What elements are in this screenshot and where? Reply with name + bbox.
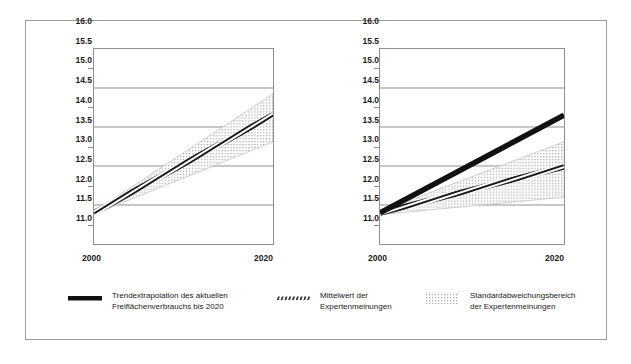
panels-row: SZENARIO 1 (Turbo-Kapitalismus) 16.0 15.… — [26, 21, 606, 279]
chart-panel-szenario-1: SZENARIO 1 (Turbo-Kapitalismus) 16.0 15.… — [26, 21, 317, 279]
legend-item-standardabweichung: Standardabweichungsbereich der Expertenm… — [426, 291, 575, 312]
legend-label-trendextrapolation: Trendextrapolation des aktuellen Freiflä… — [112, 291, 228, 312]
y-tick-12-5: 12.5 — [345, 154, 379, 164]
chart-panel-szenario-2: SZENARIO 2 (Sozio-Kapitalismus) 16.0 15.… — [317, 21, 608, 279]
plot-svg-szenario-2 — [380, 49, 564, 244]
figure-frame: SZENARIO 1 (Turbo-Kapitalismus) 16.0 15.… — [25, 20, 607, 340]
legend-item-trendextrapolation: Trendextrapolation des aktuellen Freiflä… — [68, 291, 228, 312]
legend-label-standardabweichung: Standardabweichungsbereich der Expertenm… — [470, 291, 575, 312]
y-tick-15-0: 15.0 — [58, 55, 92, 65]
legend-item-mittelwert: Mittelwert der Expertenmeinungen — [276, 291, 392, 312]
thick-black-line-swatch — [68, 291, 102, 305]
plot-svg-szenario-1 — [94, 49, 273, 244]
y-tick-14-5: 14.5 — [345, 75, 379, 85]
y-tick-13-0: 13.0 — [345, 134, 379, 144]
y-axis-tick-labels-szenario-2: 16.0 15.5 15.0 14.5 14.0 13.5 13.0 12.5 … — [345, 21, 379, 279]
y-tick-11-0: 11.0 — [58, 213, 92, 223]
y-tick-12-5: 12.5 — [58, 154, 92, 164]
y-tick-14-0: 14.0 — [345, 95, 379, 105]
x-tick-end-szenario-2: 2020 — [545, 253, 564, 263]
y-tick-15-0: 15.0 — [345, 55, 379, 65]
plot-area-szenario-1 — [93, 48, 274, 245]
x-tick-start-szenario-2: 2000 — [368, 253, 387, 263]
plot-area-szenario-2 — [379, 48, 565, 245]
y-tick-14-0: 14.0 — [58, 95, 92, 105]
y-tick-15-5: 15.5 — [58, 36, 92, 46]
x-tick-start-szenario-1: 2000 — [82, 253, 101, 263]
y-tick-13-0: 13.0 — [58, 134, 92, 144]
y-tick-12-0: 12.0 — [345, 174, 379, 184]
y-tick-11-5: 11.5 — [345, 193, 379, 203]
y-tick-13-5: 13.5 — [58, 115, 92, 125]
y-tick-15-5: 15.5 — [345, 36, 379, 46]
y-tick-11-0: 11.0 — [345, 213, 379, 223]
legend-label-mittelwert: Mittelwert der Expertenmeinungen — [320, 291, 392, 312]
y-tick-11-5: 11.5 — [58, 193, 92, 203]
stippled-band-swatch — [426, 291, 460, 305]
y-tick-12-0: 12.0 — [58, 174, 92, 184]
y-tick-16-0: 16.0 — [345, 16, 379, 26]
y-tick-14-5: 14.5 — [58, 75, 92, 85]
y-axis-tick-labels-szenario-1: 16.0 15.5 15.0 14.5 14.0 13.5 13.0 12.5 … — [58, 21, 92, 279]
x-tick-end-szenario-1: 2020 — [254, 253, 273, 263]
y-tick-13-5: 13.5 — [345, 115, 379, 125]
hatched-line-swatch — [276, 291, 310, 305]
mean-line-szenario-1 — [94, 115, 273, 213]
y-tick-16-0: 16.0 — [58, 16, 92, 26]
legend: Trendextrapolation des aktuellen Freiflä… — [26, 283, 606, 329]
